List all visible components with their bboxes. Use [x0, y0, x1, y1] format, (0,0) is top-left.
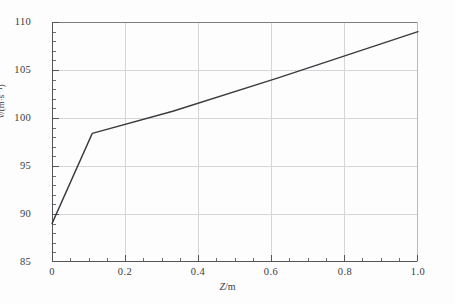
x-tick-label: 0.6: [251, 266, 291, 277]
y-tick-label: 85: [20, 256, 31, 267]
y-axis-title-unit: /(m·s⁻¹): [0, 84, 6, 113]
y-tick-label: 100: [14, 112, 31, 123]
y-tick-label: 110: [15, 16, 31, 27]
y-axis-title: v/(m·s⁻¹): [0, 84, 6, 117]
x-axis-title-unit: /m: [225, 281, 236, 292]
chart-figure: 110 105 100 95 90 85 0 0.2 0.4 0.6 0.8 1…: [0, 0, 455, 304]
x-tick-label: 0.4: [178, 266, 218, 277]
plot-area: [52, 22, 418, 262]
y-tick-label: 95: [20, 160, 31, 171]
y-tick-label: 90: [20, 208, 31, 219]
y-tick-label: 105: [14, 64, 31, 75]
x-tick-label: 1.0: [398, 266, 438, 277]
data-series-line: [52, 22, 418, 262]
x-axis-title: Z/m: [0, 281, 455, 292]
x-tick-label: 0: [32, 266, 72, 277]
x-tick-label: 0.8: [325, 266, 365, 277]
y-axis-title-variable: v: [0, 114, 6, 118]
x-tick-label: 0.2: [105, 266, 145, 277]
